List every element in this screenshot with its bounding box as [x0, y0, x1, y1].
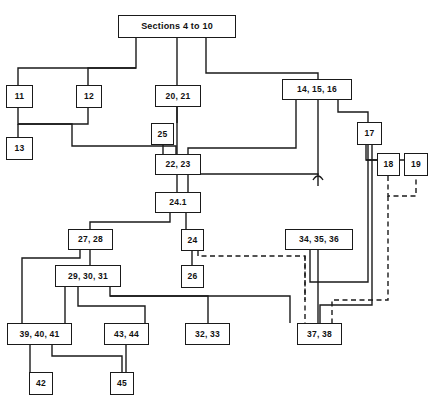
node-label: 32, 33 — [195, 330, 220, 339]
node-label: 12 — [84, 92, 94, 101]
node-label: 37, 38 — [307, 330, 332, 339]
node-n42[interactable]: 42 — [29, 372, 53, 395]
connector-solid — [18, 108, 88, 124]
node-n26[interactable]: 26 — [181, 265, 204, 288]
node-label: 19 — [411, 160, 421, 169]
node-root[interactable]: Sections 4 to 10 — [118, 15, 236, 38]
flowchart-diagram: Sections 4 to 1011121320, 212522, 2314, … — [0, 0, 433, 404]
connector-solid — [206, 38, 318, 79]
node-n3738[interactable]: 37, 38 — [297, 323, 342, 345]
connector-solid — [88, 68, 136, 85]
node-n13[interactable]: 13 — [6, 137, 33, 160]
connector-solid — [110, 296, 208, 323]
connector-solid — [90, 213, 170, 229]
node-label: 43, 44 — [114, 330, 139, 339]
connector-dashed — [332, 196, 388, 323]
connector-solid — [188, 174, 318, 192]
connector-solid — [338, 100, 368, 122]
node-n2728[interactable]: 27, 28 — [68, 229, 113, 250]
connector-solid — [110, 287, 290, 323]
node-n45[interactable]: 45 — [110, 372, 134, 395]
node-label: 29, 30, 31 — [68, 272, 108, 281]
node-label: 20, 21 — [166, 92, 191, 101]
node-n343536[interactable]: 34, 35, 36 — [285, 229, 353, 250]
node-n19[interactable]: 19 — [404, 153, 428, 176]
node-n24[interactable]: 24 — [181, 229, 204, 251]
connector-solid — [18, 38, 136, 85]
node-label: 39, 40, 41 — [20, 330, 60, 339]
node-label: 18 — [384, 160, 394, 169]
node-label: 17 — [365, 129, 375, 138]
connector-solid — [78, 287, 145, 323]
node-label: 27, 28 — [78, 235, 103, 244]
connector-dashed — [198, 251, 305, 330]
node-n394041[interactable]: 39, 40, 41 — [7, 323, 72, 345]
node-n18[interactable]: 18 — [377, 153, 400, 176]
connector-dashed — [388, 176, 416, 196]
node-label: 24 — [188, 236, 198, 245]
node-n141516[interactable]: 14, 15, 16 — [282, 79, 352, 100]
node-label: 22, 23 — [166, 160, 191, 169]
node-n3233[interactable]: 32, 33 — [185, 323, 230, 345]
node-n2223[interactable]: 22, 23 — [155, 154, 201, 175]
node-label: 24.1 — [169, 198, 186, 207]
node-n12[interactable]: 12 — [76, 85, 102, 108]
node-label: 13 — [15, 144, 25, 153]
node-label: 11 — [15, 92, 24, 101]
node-n4344[interactable]: 43, 44 — [104, 323, 149, 345]
node-label: 26 — [188, 272, 198, 281]
connector-solid — [310, 145, 368, 282]
node-label: 25 — [158, 130, 168, 139]
node-label: 42 — [36, 379, 46, 388]
node-n2021[interactable]: 20, 21 — [155, 85, 201, 107]
node-label: 34, 35, 36 — [299, 235, 339, 244]
connector-solid — [188, 100, 296, 154]
connector-solid — [52, 345, 122, 372]
node-label: Sections 4 to 10 — [141, 22, 213, 31]
node-n293031[interactable]: 29, 30, 31 — [55, 265, 121, 287]
node-n241[interactable]: 24.1 — [155, 192, 201, 213]
node-label: 14, 15, 16 — [297, 85, 337, 94]
node-label: 45 — [117, 379, 127, 388]
node-n11[interactable]: 11 — [6, 85, 33, 108]
node-n17[interactable]: 17 — [357, 122, 382, 145]
node-n25[interactable]: 25 — [151, 123, 174, 145]
